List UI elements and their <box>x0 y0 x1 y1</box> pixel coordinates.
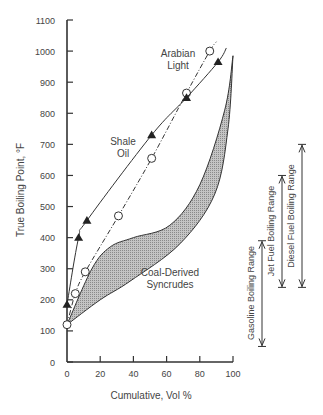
x-tick-label: 60 <box>162 369 172 379</box>
circle-marker <box>114 212 122 220</box>
y-tick-label: 500 <box>40 202 55 212</box>
label-coal-derived-1: Coal-Derived <box>141 267 199 278</box>
label-diesel-range: Diesel Fuel Boiling Range <box>286 164 296 268</box>
y-tick-label: 800 <box>40 109 55 119</box>
y-tick-label: 200 <box>40 295 55 305</box>
y-tick-label: 400 <box>40 233 55 243</box>
x-tick-label: 40 <box>128 369 138 379</box>
y-tick-label: 600 <box>40 171 55 181</box>
circle-marker <box>148 154 156 162</box>
label-shale-oil-2: Oil <box>117 148 129 159</box>
label-shale-oil-1: Shale <box>110 136 136 147</box>
x-axis-label: Cumulative, Vol % <box>110 390 191 401</box>
x-tick-label: 80 <box>195 369 205 379</box>
label-arabian-light-2: Light <box>167 60 189 71</box>
triangle-marker <box>82 216 91 224</box>
circle-marker <box>81 268 89 276</box>
y-tick-label: 1000 <box>35 47 55 57</box>
label-coal-derived-2: Syncrudes <box>146 279 193 290</box>
boiling-point-chart: 0100200300400500600700800900100011000204… <box>0 0 323 415</box>
label-jet-range: Jet Fuel Boiling Range <box>266 186 276 277</box>
y-tick-label: 0 <box>50 358 55 368</box>
x-tick-label: 20 <box>95 369 105 379</box>
triangle-marker <box>74 233 83 241</box>
y-tick-label: 700 <box>40 140 55 150</box>
label-arabian-light-1: Arabian <box>161 48 195 59</box>
y-axis-label: True Boiling Point, °F <box>15 143 26 237</box>
y-tick-label: 100 <box>40 326 55 336</box>
y-tick-label: 1100 <box>36 16 55 26</box>
x-tick-label: 100 <box>225 369 240 379</box>
x-tick-label: 0 <box>64 369 69 379</box>
circle-marker <box>206 47 214 55</box>
circle-marker <box>71 290 79 298</box>
label-gasoline-range: Gasoline Boiling Range <box>246 246 256 340</box>
circle-marker <box>63 321 71 329</box>
y-tick-label: 900 <box>40 78 55 88</box>
triangle-marker <box>63 300 72 308</box>
y-tick-label: 300 <box>40 264 55 274</box>
triangle-marker <box>214 57 223 65</box>
